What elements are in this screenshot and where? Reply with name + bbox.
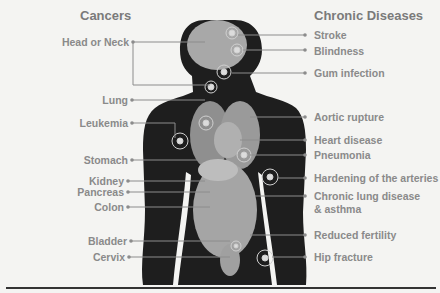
cancer-label-lung: Lung [102,94,128,106]
disease-label-blindness: Blindness [314,45,364,57]
disease-label-chronic-lung: Chronic lung disease [314,190,420,202]
disease-label-reduced-fertility: Reduced fertility [314,229,396,241]
cancer-label-leukemia: Leukemia [80,117,128,129]
disease-label-gum-infection: Gum infection [314,67,385,79]
cancer-label-pancreas: Pancreas [77,186,124,198]
cancer-label-cervix: Cervix [93,251,125,263]
disease-label-pneumonia: Pneumonia [314,149,371,161]
disease-label-aortic-rupture: Aortic rupture [314,111,384,123]
cancer-label-head-neck: Head or Neck [62,36,129,48]
disease-label-hip-fracture: Hip fracture [314,251,373,263]
cancer-label-stomach: Stomach [84,154,128,166]
cancer-label-bladder: Bladder [88,235,127,247]
disease-label-stroke: Stroke [314,29,347,41]
bottom-rule [6,287,436,289]
cancer-label-colon: Colon [94,201,124,213]
disease-label-hardening-arteries: Hardening of the arteries [314,172,438,184]
disease-label-heart-disease: Heart disease [314,134,382,146]
disease-label-asthma: & asthma [314,203,361,215]
